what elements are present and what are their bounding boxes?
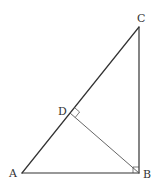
label-c: C	[137, 12, 145, 25]
segment-bd	[70, 113, 139, 173]
segment-ca	[22, 27, 139, 173]
label-d: D	[58, 105, 67, 118]
label-a: A	[8, 167, 18, 180]
triangle-diagram: C D A B	[0, 0, 158, 196]
right-angle-mark-d	[74, 108, 79, 118]
label-b: B	[143, 168, 151, 181]
